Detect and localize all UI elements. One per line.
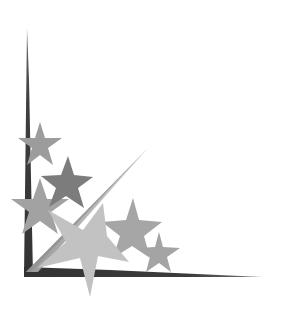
corner-ornament — [0, 0, 291, 316]
horizontal-spike — [24, 267, 262, 277]
star-corner-graphic — [0, 0, 291, 316]
star-top-small-icon — [18, 122, 62, 165]
